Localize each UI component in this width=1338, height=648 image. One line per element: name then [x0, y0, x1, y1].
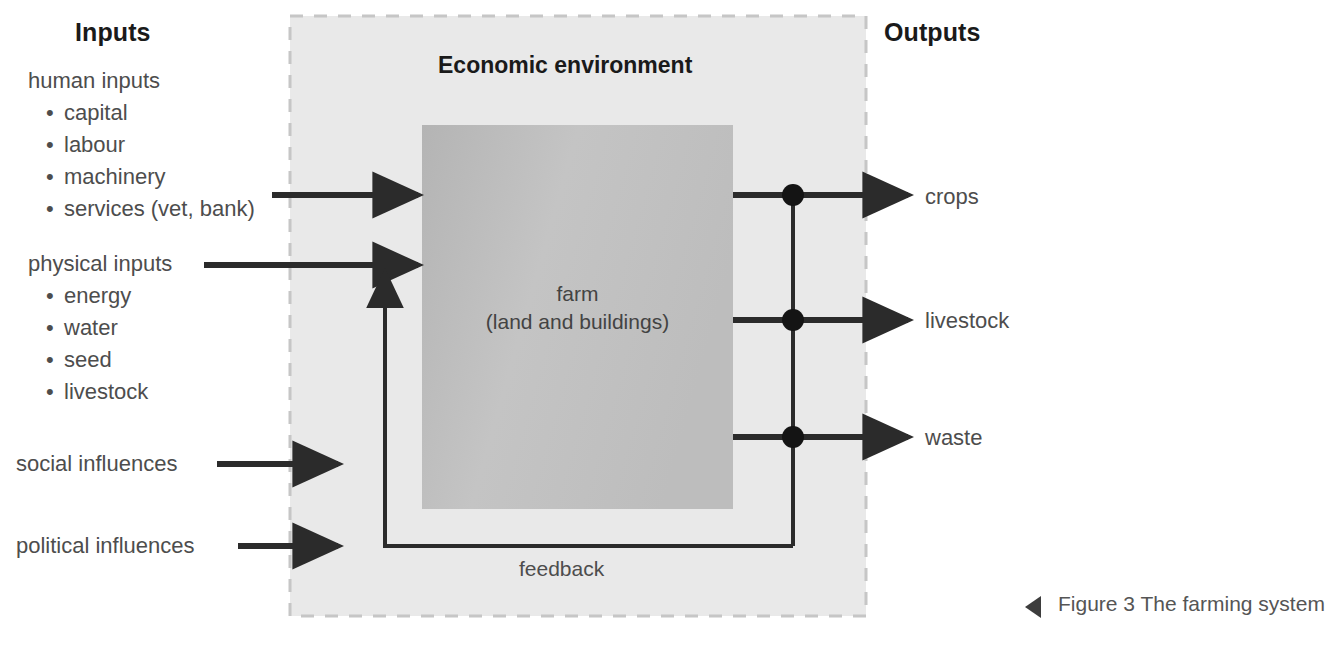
bullet-icon: • — [46, 283, 64, 309]
list-item: •machinery — [46, 164, 165, 190]
farm-label-line1: farm — [422, 280, 733, 308]
bullet-icon: • — [46, 132, 64, 158]
list-item: •seed — [46, 347, 112, 373]
bullet-icon: • — [46, 100, 64, 126]
list-item-label: machinery — [64, 164, 165, 189]
outputs-heading: Outputs — [884, 18, 981, 47]
bullet-icon: • — [46, 315, 64, 341]
physical-inputs-group-title: physical inputs — [28, 251, 172, 277]
political-influences-label: political influences — [16, 533, 195, 559]
economic-environment-title: Economic environment — [438, 52, 692, 79]
list-item-label: services (vet, bank) — [64, 196, 255, 221]
livestock-junction-dot — [782, 309, 804, 331]
figure-caption: Figure 3 The farming system — [1058, 592, 1325, 616]
output-label-crops: crops — [925, 184, 979, 210]
bullet-icon: • — [46, 164, 64, 190]
list-item: •services (vet, bank) — [46, 196, 255, 222]
left-triangle-icon — [1025, 596, 1041, 618]
list-item-label: water — [64, 315, 118, 340]
feedback-label: feedback — [519, 557, 604, 581]
farm-label-line2: (land and buildings) — [422, 308, 733, 336]
social-influences-label: social influences — [16, 451, 177, 477]
figure-canvas: Inputs Outputs Economic environment huma… — [0, 0, 1338, 648]
list-item: •water — [46, 315, 118, 341]
farm-box-label: farm (land and buildings) — [422, 280, 733, 337]
list-item-label: livestock — [64, 379, 148, 404]
output-label-livestock: livestock — [925, 308, 1009, 334]
list-item-label: energy — [64, 283, 131, 308]
output-label-waste: waste — [925, 425, 982, 451]
list-item-label: labour — [64, 132, 125, 157]
human-inputs-group-title: human inputs — [28, 68, 160, 94]
inputs-heading: Inputs — [75, 18, 151, 47]
list-item-label: seed — [64, 347, 112, 372]
list-item-label: capital — [64, 100, 128, 125]
bullet-icon: • — [46, 196, 64, 222]
list-item: •energy — [46, 283, 131, 309]
crops-junction-dot — [782, 184, 804, 206]
list-item: •capital — [46, 100, 128, 126]
waste-junction-dot — [782, 426, 804, 448]
list-item: •livestock — [46, 379, 148, 405]
list-item: •labour — [46, 132, 125, 158]
bullet-icon: • — [46, 347, 64, 373]
bullet-icon: • — [46, 379, 64, 405]
